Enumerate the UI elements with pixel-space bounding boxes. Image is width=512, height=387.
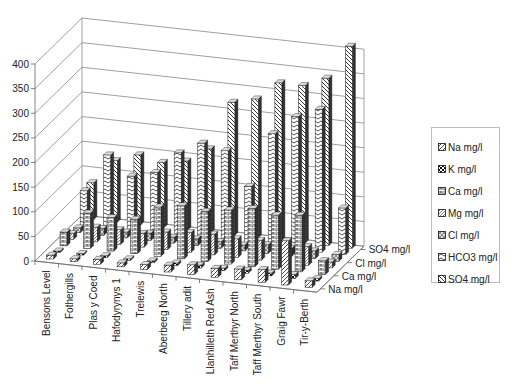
depth-axis-label: SO4 mg/l (369, 244, 411, 255)
bar (60, 229, 70, 246)
bar (107, 215, 117, 251)
legend-swatch-icon (438, 253, 446, 261)
x-category-label: Tillery adit (182, 286, 193, 331)
legend-item: HCO3 mg/l (438, 246, 499, 268)
legend-item: Mg mg/l (438, 202, 499, 224)
legend-item: Cl mg/l (438, 224, 499, 246)
x-category-label: Tir-y-Berth (299, 299, 310, 346)
legend-label: Na mg/l (448, 142, 482, 153)
bar (235, 266, 245, 280)
x-category-label: Bensons Level (41, 270, 52, 336)
legend-item: SO4 mg/l (438, 268, 499, 290)
legend-swatch-icon (438, 143, 446, 151)
legend-label: SO4 mg/l (448, 274, 490, 285)
bar (164, 262, 174, 272)
legend-swatch-icon (438, 187, 446, 195)
x-category-label: Hafodyrynys 1 (111, 278, 122, 342)
bar (201, 208, 211, 261)
bar (295, 212, 305, 272)
bar (319, 258, 329, 275)
bar (188, 262, 198, 275)
legend-label: Ca mg/l (448, 186, 482, 197)
bar (117, 260, 127, 267)
x-category-label: Aberbeeg North (158, 283, 169, 354)
depth-axis-label: Cl mg/l (355, 258, 386, 269)
bar (225, 207, 235, 264)
y-tick-label: 400 (12, 59, 29, 70)
bar (131, 216, 141, 253)
legend-item: Ca mg/l (438, 180, 499, 202)
y-tick-label: 0 (23, 256, 29, 267)
bar (211, 265, 221, 277)
legend-label: HCO3 mg/l (448, 252, 497, 263)
x-category-label: Plas y Coed (88, 276, 99, 330)
bar (77, 251, 87, 255)
legend-label: Mg mg/l (448, 208, 484, 219)
legend-label: Cl mg/l (448, 230, 479, 241)
chart-bars (47, 43, 356, 287)
x-category-label: Taff Merthyr South (252, 294, 263, 376)
depth-axis-label: Na mg/l (328, 284, 362, 295)
bar (94, 256, 104, 264)
bar (70, 256, 80, 262)
bar (154, 204, 164, 256)
legend-item: Na mg/l (438, 136, 499, 158)
legend-swatch-icon (438, 165, 446, 173)
bar (258, 267, 268, 283)
y-tick-label: 200 (12, 157, 29, 168)
bar (84, 210, 94, 248)
y-tick-label: 300 (12, 108, 29, 119)
y-tick-label: 50 (18, 231, 30, 242)
y-tick-label: 350 (12, 83, 29, 94)
depth-axis-label: Ca mg/l (342, 271, 376, 282)
legend-swatch-icon (438, 231, 446, 239)
y-tick-label: 100 (12, 206, 29, 217)
y-tick-label: 150 (12, 182, 29, 193)
bar (53, 248, 63, 252)
x-category-label: Graig Fawr (276, 296, 287, 346)
bar (178, 203, 188, 259)
x-category-label: Trelewis (135, 281, 146, 318)
x-category-label: Taff Merthyr North (229, 291, 240, 371)
legend-swatch-icon (438, 275, 446, 283)
y-tick-label: 250 (12, 132, 29, 143)
bar (47, 252, 57, 259)
bar (339, 205, 349, 255)
x-category-label: Fothergills (64, 273, 75, 319)
bar (305, 278, 315, 288)
bar (124, 256, 134, 260)
bar (272, 212, 282, 269)
bar (248, 206, 258, 267)
legend-label: K mg/l (448, 164, 476, 175)
legend: Na mg/lK mg/lCa mg/lMg mg/lCl mg/lHCO3 m… (431, 127, 500, 283)
x-category-label: Llanhilleth Red Ash (205, 289, 216, 375)
legend-swatch-icon (438, 209, 446, 217)
bar (282, 238, 292, 285)
bar (141, 261, 151, 269)
legend-item: K mg/l (438, 158, 499, 180)
bar (315, 106, 325, 252)
